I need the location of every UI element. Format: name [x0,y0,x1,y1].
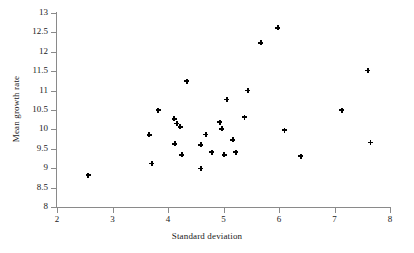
x-axis-tick-mark [390,208,391,213]
y-axis-tick-mark [51,32,56,33]
y-axis-tick-label: 13 [39,8,48,17]
y-axis-tick-mark [51,91,56,92]
x-axis-tick-label: 7 [325,214,345,224]
y-axis-tick-label: 11.5 [33,66,48,75]
x-axis-tick-mark [224,208,225,213]
x-axis-tick-label: 3 [103,214,123,224]
scatter-plot-figure: 88.599.51010.51111.51212.513 2345678 Sta… [0,0,414,253]
x-axis-tick-label: 8 [380,214,400,224]
y-axis-tick-label: 9.5 [37,144,48,153]
x-axis-title: Standard deviation [0,231,414,241]
y-axis-tick-mark [51,52,56,53]
x-axis-tick-mark [168,208,169,213]
y-axis-tick-label: 12 [39,47,48,56]
y-axis-tick-label: 9 [44,163,49,172]
y-axis-tick-label: 10.5 [32,105,48,114]
x-axis-tick-label: 2 [47,214,67,224]
y-axis-tick-mark [51,13,56,14]
y-axis-tick-label: 8 [44,202,49,211]
y-axis-tick-mark [51,207,56,208]
y-axis-title: Mean growth rate [11,49,21,169]
y-axis-tick-mark [51,71,56,72]
y-axis-tick-label: 11 [39,86,48,95]
y-axis-tick-mark [51,110,56,111]
x-axis-tick-label: 5 [214,214,234,224]
y-axis-tick-mark [51,129,56,130]
y-axis-tick-mark [51,188,56,189]
y-axis-tick-label: 10 [39,124,48,133]
x-axis-tick-mark [57,208,58,213]
x-axis-tick-mark [113,208,114,213]
x-axis-tick-label: 6 [269,214,289,224]
x-axis-tick-mark [335,208,336,213]
x-axis-tick-mark [279,208,280,213]
plot-data-area [57,13,390,207]
y-axis-tick-mark [51,149,56,150]
x-axis-tick-label: 4 [158,214,178,224]
y-axis-tick-label: 12.5 [32,27,48,36]
y-axis-tick-mark [51,168,56,169]
y-axis-tick-label: 8.5 [37,183,48,192]
